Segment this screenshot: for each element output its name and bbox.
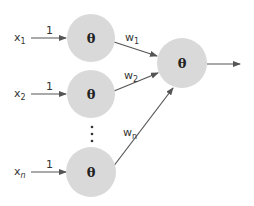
input-weight-1: 1: [46, 24, 53, 37]
node-label: θ: [87, 165, 96, 180]
input-weight-2: 1: [46, 80, 53, 93]
weight-label-n: wn: [123, 126, 137, 141]
node-label: θ: [178, 56, 187, 71]
output-node: θ: [157, 38, 207, 88]
weight-label-2: w2: [124, 69, 138, 84]
hidden-node-n: θ: [66, 147, 116, 197]
ellipsis-dots: [91, 126, 94, 143]
hidden-node-1: θ: [67, 14, 115, 62]
hidden-node-2: θ: [67, 70, 115, 118]
input-label-2: x2: [14, 87, 26, 102]
perceptron-diagram: θ θ θ θ x1 x2 xn 1 1 1 w1 w2 wn: [0, 0, 254, 206]
input-label-n: xn: [14, 165, 26, 180]
weight-label-1: w1: [125, 31, 139, 46]
input-weight-n: 1: [46, 158, 53, 171]
node-label: θ: [87, 31, 96, 46]
weight-edge-n: [113, 88, 173, 167]
node-label: θ: [87, 87, 96, 102]
input-label-1: x1: [14, 31, 26, 46]
